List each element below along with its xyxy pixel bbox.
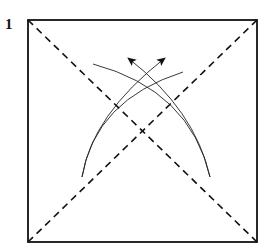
arc-left-outer: [93, 64, 210, 177]
fold-arrow-right: [82, 58, 165, 177]
origami-diagram: [0, 0, 272, 251]
fold-arrow-left: [128, 58, 210, 177]
